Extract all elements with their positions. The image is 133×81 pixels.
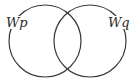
set-label-wq: Wq [107, 16, 131, 29]
venn-canvas [0, 0, 133, 81]
set-label-wp: Wp [5, 16, 29, 29]
